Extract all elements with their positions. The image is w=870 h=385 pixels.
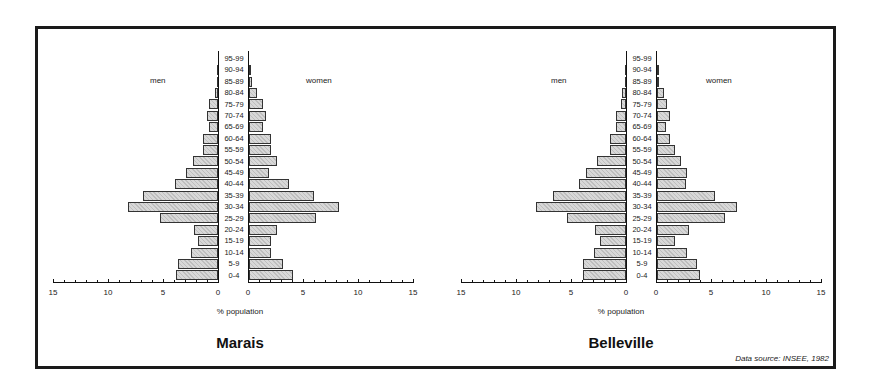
bar-women <box>249 270 293 280</box>
men-label: men <box>150 76 166 85</box>
bar-women <box>657 202 737 212</box>
age-group-label: 65-69 <box>627 121 657 132</box>
x-tick <box>788 280 789 282</box>
bar-women <box>249 122 263 132</box>
x-tick <box>369 280 370 282</box>
bar-women <box>657 248 687 258</box>
bar-men <box>143 191 218 201</box>
x-tick <box>130 280 131 282</box>
x-tick <box>336 280 337 282</box>
x-tick <box>656 279 657 282</box>
x-tick <box>733 280 734 282</box>
bar-women <box>249 248 271 258</box>
x-tick <box>303 279 304 282</box>
bar-women <box>249 191 314 201</box>
x-tick <box>292 280 293 282</box>
age-group-label: 0-4 <box>627 270 657 281</box>
bar-women <box>657 259 697 269</box>
bar-men <box>186 168 218 178</box>
bar-men <box>616 122 626 132</box>
bar-men <box>553 191 626 201</box>
age-group-label: 70-74 <box>627 110 657 121</box>
bar-women <box>657 168 687 178</box>
age-group-label: 20-24 <box>219 224 249 235</box>
x-tick-label: 0 <box>646 288 666 297</box>
age-group-label: 20-24 <box>627 224 657 235</box>
x-tick <box>516 279 517 282</box>
center-axis-line <box>248 51 249 282</box>
x-tick <box>358 279 359 282</box>
bar-women <box>249 77 252 87</box>
x-tick <box>75 280 76 282</box>
age-group-label: 10-14 <box>219 247 249 258</box>
age-group-label: 50-54 <box>219 156 249 167</box>
x-tick <box>64 280 65 282</box>
x-tick <box>505 280 506 282</box>
age-group-label: 60-64 <box>627 133 657 144</box>
x-tick <box>248 279 249 282</box>
x-tick <box>152 280 153 282</box>
x-tick <box>711 279 712 282</box>
x-tick <box>604 280 605 282</box>
bar-men <box>610 134 627 144</box>
x-tick <box>413 279 414 282</box>
x-tick <box>538 280 539 282</box>
x-tick <box>218 279 219 282</box>
x-tick <box>799 280 800 282</box>
bar-men <box>583 259 626 269</box>
bar-women <box>657 134 670 144</box>
age-group-label: 15-19 <box>219 235 249 246</box>
x-tick <box>325 280 326 282</box>
age-group-label: 55-59 <box>627 144 657 155</box>
x-tick <box>314 280 315 282</box>
bar-men <box>536 202 626 212</box>
bar-women <box>249 111 266 121</box>
x-tick <box>281 280 282 282</box>
age-group-label: 60-64 <box>219 133 249 144</box>
x-tick <box>582 280 583 282</box>
x-tick <box>626 279 627 282</box>
x-tick-label: 15 <box>451 288 471 297</box>
x-tick <box>174 280 175 282</box>
bar-men <box>610 145 627 155</box>
x-tick <box>766 279 767 282</box>
figure-frame: men women 0-45-910-1415-1920-2425-2930-3… <box>35 26 836 369</box>
bar-men <box>600 236 626 246</box>
age-group-label: 30-34 <box>219 201 249 212</box>
bar-women <box>249 88 257 98</box>
age-group-label: 40-44 <box>627 178 657 189</box>
age-group-label: 50-54 <box>627 156 657 167</box>
bar-women <box>657 179 686 189</box>
x-tick <box>163 279 164 282</box>
age-group-label: 35-39 <box>219 190 249 201</box>
age-group-label: 45-49 <box>627 167 657 178</box>
age-group-label: 35-39 <box>627 190 657 201</box>
bar-women <box>657 111 670 121</box>
men-label: men <box>551 76 567 85</box>
bar-women <box>249 179 289 189</box>
x-tick-label: 10 <box>98 288 118 297</box>
age-group-label: 80-84 <box>219 87 249 98</box>
data-source-note: Data source: INSEE, 1982 <box>735 354 829 363</box>
bar-men <box>209 122 218 132</box>
age-group-label: 45-49 <box>219 167 249 178</box>
x-tick <box>821 279 822 282</box>
bar-men <box>586 168 626 178</box>
x-tick <box>689 280 690 282</box>
x-tick <box>270 280 271 282</box>
bar-women <box>249 65 251 75</box>
age-group-label: 25-29 <box>627 213 657 224</box>
x-tick-label: 15 <box>811 288 831 297</box>
age-group-label: 90-94 <box>219 64 249 75</box>
x-axis-line <box>461 282 627 283</box>
bar-women <box>657 65 659 75</box>
bar-women <box>657 236 675 246</box>
bar-men <box>128 202 218 212</box>
x-axis-line <box>656 282 822 283</box>
age-group-label: 75-79 <box>627 99 657 110</box>
x-tick <box>402 280 403 282</box>
age-group-label: 10-14 <box>627 247 657 258</box>
x-tick-label: 15 <box>403 288 423 297</box>
x-tick <box>549 280 550 282</box>
x-tick <box>700 280 701 282</box>
